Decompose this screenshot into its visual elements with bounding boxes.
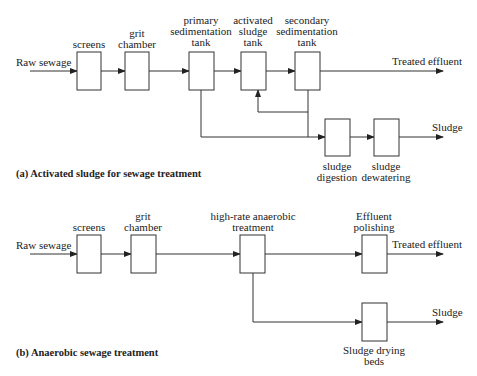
- a-box-screens: [77, 52, 101, 90]
- a-label-primary-sedimentation: primary sedimentation tank: [166, 15, 236, 48]
- b-treated-effluent-label: Treated effluent: [392, 239, 462, 250]
- b-box-grit-chamber: [131, 235, 156, 273]
- b-box-effluent-polishing: [362, 235, 387, 273]
- b-caption: (b) Anaerobic sewage treatment: [16, 347, 158, 358]
- a-label-screens: screens: [69, 39, 109, 50]
- a-sludge-label: Sludge: [432, 122, 463, 133]
- b-label-screens: screens: [69, 222, 109, 233]
- b-box-screens: [77, 235, 101, 273]
- a-caption: (a) Activated sludge for sewage treatmen…: [16, 168, 201, 179]
- a-treated-effluent-label: Treated effluent: [392, 56, 462, 67]
- a-label-grit-chamber: grit chamber: [117, 28, 157, 50]
- b-label-high-rate-anaerobic: high-rate anaerobic treatment: [203, 211, 303, 233]
- a-box-secondary-sedimentation: [295, 52, 320, 90]
- a-label-sludge-digestion: sludge digestion: [312, 161, 362, 183]
- a-label-activated-sludge: activated sludge tank: [228, 15, 278, 48]
- b-box-high-rate-anaerobic: [240, 235, 265, 273]
- b-label-sludge-drying-beds: Sludge drying beds: [334, 345, 414, 367]
- a-box-sludge-dewatering: [374, 119, 399, 156]
- b-raw-sewage-label: Raw sewage: [16, 240, 71, 251]
- a-raw-sewage-label: Raw sewage: [16, 57, 71, 68]
- b-label-grit-chamber: grit chamber: [123, 211, 163, 233]
- a-box-sludge-digestion: [325, 119, 350, 156]
- a-box-grit-chamber: [125, 52, 149, 90]
- b-label-effluent-polishing: Effluent polishing: [344, 211, 404, 233]
- a-box-activated-sludge: [241, 52, 266, 90]
- a-label-secondary-sedimentation: secondary sedimentation tank: [272, 15, 342, 48]
- a-label-sludge-dewatering: sludge dewatering: [358, 161, 414, 183]
- b-box-sludge-drying-beds: [362, 303, 387, 341]
- a-box-primary-sedimentation: [189, 52, 214, 90]
- b-sludge-label: Sludge: [432, 307, 463, 318]
